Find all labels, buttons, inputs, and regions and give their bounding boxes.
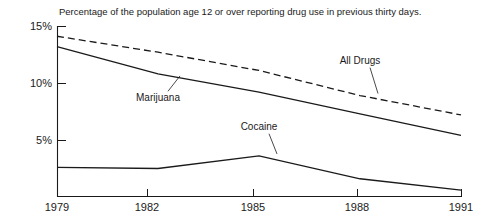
leader-line-marijuana <box>168 76 180 91</box>
x-tick-label-1991: 1991 <box>449 201 473 213</box>
series-line-all-drugs <box>57 36 461 115</box>
x-tick-label-1988: 1988 <box>345 201 369 213</box>
x-tick-label-1979: 1979 <box>45 201 69 213</box>
chart-container: Percentage of the population age 12 or o… <box>0 0 488 218</box>
line-chart: Percentage of the population age 12 or o… <box>0 0 488 218</box>
series-label-marijuana: Marijuana <box>136 92 180 103</box>
chart-title: Percentage of the population age 12 or o… <box>59 6 421 17</box>
series-line-cocaine <box>57 156 461 190</box>
leader-line-all-drugs <box>370 68 378 94</box>
series-label-all-drugs: All Drugs <box>340 55 381 66</box>
x-tick-label-1985: 1985 <box>241 201 265 213</box>
x-tick-label-1982: 1982 <box>135 201 159 213</box>
y-tick-label-5: 5% <box>36 134 52 146</box>
y-tick-label-15: 15% <box>30 20 52 32</box>
y-tick-label-10: 10% <box>30 77 52 89</box>
leader-line-cocaine <box>269 134 277 154</box>
series-label-cocaine: Cocaine <box>241 121 278 132</box>
